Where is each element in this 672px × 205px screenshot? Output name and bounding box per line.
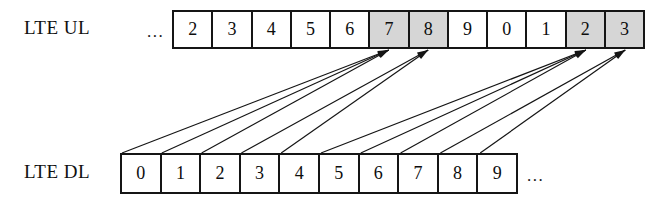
ellipsis-before-ul-row: ... [147, 22, 164, 42]
subframe-cell-ul-0: 2 [174, 12, 213, 47]
subframe-cell-ul-6: 8 [410, 12, 449, 47]
subframe-cell-dl-4: 4 [280, 155, 320, 192]
subframe-cell-dl-7: 7 [399, 155, 439, 192]
subframe-cell-ul-1: 3 [213, 12, 252, 47]
arrow-dl5-to-ul10 [321, 50, 586, 153]
subframe-cell-ul-11: 3 [606, 12, 643, 47]
arrow-dl7-to-ul10 [401, 50, 586, 153]
subframe-cell-dl-8: 8 [439, 155, 479, 192]
subframe-cell-ul-8: 0 [488, 12, 527, 47]
arrow-dl3-to-ul6 [241, 50, 428, 153]
subframe-cell-dl-3: 3 [241, 155, 281, 192]
subframe-cell-ul-3: 5 [292, 12, 331, 47]
subframe-cell-ul-5: 7 [370, 12, 409, 47]
row-label-lte-ul: LTE UL [24, 17, 90, 39]
subframe-cell-dl-1: 1 [162, 155, 202, 192]
subframe-cell-ul-2: 4 [253, 12, 292, 47]
ellipsis-after-dl-row: ... [527, 166, 544, 186]
row-label-lte-dl: LTE DL [24, 161, 90, 183]
subframe-cell-dl-0: 0 [122, 155, 162, 192]
arrow-dl4-to-ul6 [281, 50, 428, 153]
lte-dl-subframe-row: 0123456789 [120, 153, 518, 194]
arrow-dl9-to-ul11 [480, 50, 625, 153]
arrow-dl1-to-ul5 [162, 50, 389, 153]
subframe-cell-dl-9: 9 [478, 155, 516, 192]
arrow-dl8-to-ul11 [440, 50, 625, 153]
subframe-cell-dl-2: 2 [201, 155, 241, 192]
subframe-cell-dl-6: 6 [360, 155, 400, 192]
subframe-cell-dl-5: 5 [320, 155, 360, 192]
arrow-dl6-to-ul10 [361, 50, 586, 153]
subframe-cell-ul-7: 9 [449, 12, 488, 47]
subframe-cell-ul-10: 2 [567, 12, 606, 47]
lte-ul-subframe-row: 234567890123 [172, 10, 645, 49]
subframe-cell-ul-9: 1 [527, 12, 566, 47]
arrow-dl2-to-ul5 [202, 50, 389, 153]
arrow-dl0-to-ul5 [122, 50, 389, 153]
lte-tdd-timing-diagram: LTE UL ... 234567890123 LTE DL 012345678… [0, 0, 672, 205]
subframe-cell-ul-4: 6 [331, 12, 370, 47]
